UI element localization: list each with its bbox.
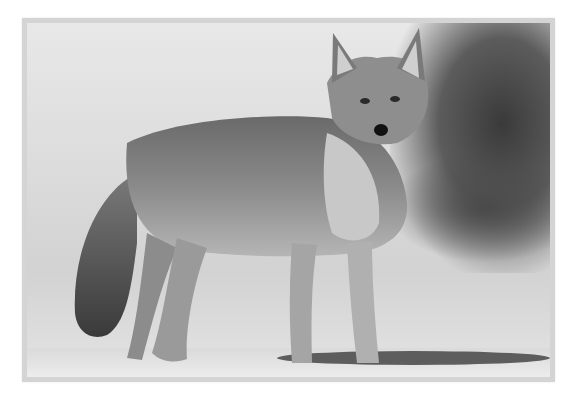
coyote-figure xyxy=(27,23,550,377)
coyote-photo: Black and white photo of a coyote standi… xyxy=(27,23,550,377)
photo-frame: Black and white photo of a coyote standi… xyxy=(22,18,555,382)
